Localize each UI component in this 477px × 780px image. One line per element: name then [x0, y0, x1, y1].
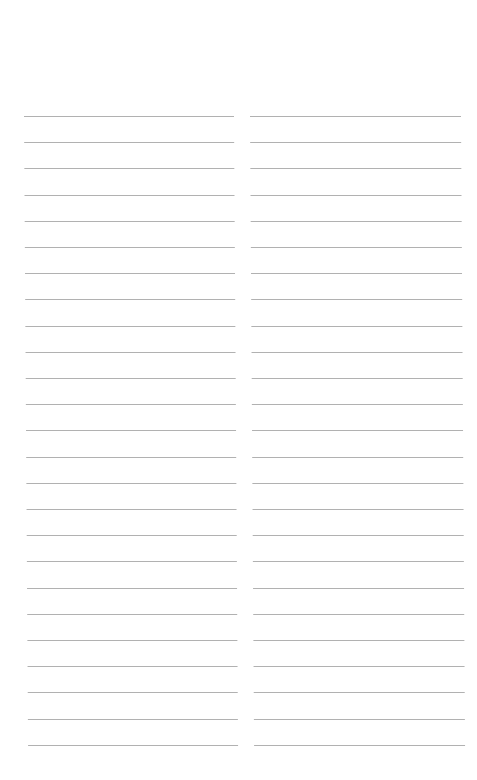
- left-ruled-line: [25, 221, 235, 222]
- left-ruled-line: [27, 561, 237, 562]
- left-ruled-line: [26, 483, 236, 484]
- left-ruled-line: [27, 588, 237, 589]
- right-ruled-line: [251, 195, 462, 196]
- left-ruled-line: [24, 168, 234, 169]
- right-ruled-line: [252, 404, 463, 405]
- right-ruled-line: [250, 142, 461, 143]
- right-ruled-line: [250, 116, 461, 117]
- right-ruled-line: [252, 483, 463, 484]
- left-ruled-line: [27, 535, 237, 536]
- right-ruled-line: [253, 640, 464, 641]
- left-ruled-line: [25, 299, 235, 300]
- left-ruled-line: [25, 247, 235, 248]
- left-ruled-line: [28, 719, 238, 720]
- right-ruled-line: [253, 588, 464, 589]
- right-ruled-line: [252, 352, 463, 353]
- right-ruled-line: [252, 378, 463, 379]
- left-ruled-line: [28, 666, 238, 667]
- right-ruled-line: [254, 666, 465, 667]
- right-ruled-line: [253, 614, 464, 615]
- right-ruled-line: [251, 247, 462, 248]
- left-ruled-line: [26, 378, 236, 379]
- left-ruled-line: [28, 692, 238, 693]
- left-ruled-line: [24, 116, 234, 117]
- left-ruled-line: [27, 640, 237, 641]
- left-ruled-line: [28, 745, 238, 746]
- right-ruled-line: [251, 326, 462, 327]
- right-ruled-line: [254, 692, 465, 693]
- blank-header-area: [0, 0, 477, 100]
- right-column: [250, 116, 465, 746]
- right-ruled-line: [254, 745, 465, 746]
- left-ruled-line: [26, 430, 236, 431]
- right-ruled-line: [251, 299, 462, 300]
- left-column: [24, 116, 238, 746]
- left-ruled-line: [27, 614, 237, 615]
- left-ruled-line: [27, 509, 237, 510]
- left-ruled-line: [26, 457, 236, 458]
- left-ruled-line: [26, 352, 236, 353]
- notepad-page: [0, 0, 477, 780]
- right-ruled-line: [252, 430, 463, 431]
- left-ruled-line: [24, 142, 234, 143]
- right-ruled-line: [254, 719, 465, 720]
- right-ruled-line: [253, 535, 464, 536]
- left-ruled-line: [25, 273, 235, 274]
- right-ruled-line: [251, 273, 462, 274]
- right-ruled-line: [251, 221, 462, 222]
- right-ruled-line: [253, 561, 464, 562]
- right-ruled-line: [253, 509, 464, 510]
- left-ruled-line: [25, 195, 235, 196]
- left-ruled-line: [25, 326, 235, 327]
- right-ruled-line: [250, 168, 461, 169]
- left-ruled-line: [26, 404, 236, 405]
- right-ruled-line: [252, 457, 463, 458]
